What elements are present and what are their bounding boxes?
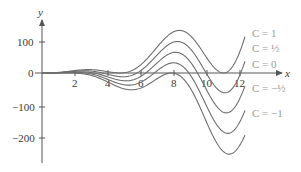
y-tick-neg200: −200: [12, 132, 35, 144]
label-c-neg-1: C = −1: [252, 107, 283, 119]
label-c-half: C = ½: [252, 42, 279, 54]
label-c-1: C = 1: [252, 27, 277, 39]
y-tick-0: 0: [28, 67, 34, 79]
chart-canvas: x y 2 4 6 8 10 12 100 0 −100 −200 C = 1 …: [0, 0, 301, 172]
y-tick-neg100: −100: [12, 101, 35, 113]
curve-group: [42, 30, 245, 154]
label-c-0: C = 0: [252, 58, 277, 70]
curve-0: [42, 30, 245, 73]
x-tick-8: 8: [171, 77, 177, 89]
x-axis-label: x: [284, 67, 290, 79]
y-axis-label: y: [37, 6, 43, 18]
y-tick-100: 100: [17, 36, 34, 48]
label-c-neg-half: C = −½: [252, 82, 286, 94]
x-tick-2: 2: [72, 77, 78, 89]
